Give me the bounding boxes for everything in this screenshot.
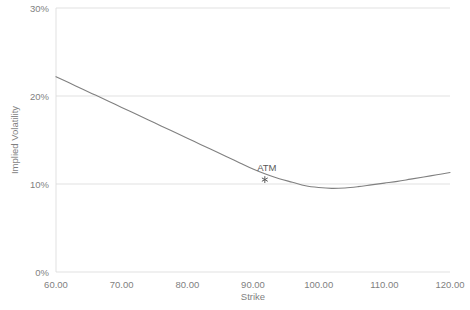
x-tick-label-70.00: 70.00 [110, 279, 134, 290]
x-tick-label-80.00: 80.00 [175, 279, 199, 290]
chart-canvas: 0%10%20%30% 60.0070.0080.0090.00100.0011… [0, 0, 470, 310]
y-axis-title: Implied Volatility [9, 106, 20, 174]
annotation-atm: ATM [257, 162, 276, 183]
y-tick-label-20%: 20% [30, 91, 50, 102]
gridlines-group [56, 8, 450, 272]
y-axis-tick-labels: 0%10%20%30% [30, 3, 50, 278]
implied-volatility-chart: 0%10%20%30% 60.0070.0080.0090.00100.0011… [0, 0, 470, 310]
x-axis-tick-labels: 60.0070.0080.0090.00100.00110.00120.00 [44, 279, 464, 290]
x-tick-label-100.00: 100.00 [304, 279, 333, 290]
y-tick-label-10%: 10% [30, 179, 50, 190]
y-tick-label-30%: 30% [30, 3, 50, 14]
atm-annotation-label: ATM [257, 162, 276, 173]
annotations-group: ATM [257, 162, 276, 183]
x-tick-label-60.00: 60.00 [44, 279, 68, 290]
x-tick-label-110.00: 110.00 [370, 279, 398, 290]
x-tick-label-90.00: 90.00 [241, 279, 265, 290]
implied-volatility-line [56, 77, 450, 189]
x-tick-label-120.00: 120.00 [435, 279, 464, 290]
y-tick-label-0%: 0% [35, 267, 49, 278]
x-axis-title: Strike [241, 291, 265, 302]
